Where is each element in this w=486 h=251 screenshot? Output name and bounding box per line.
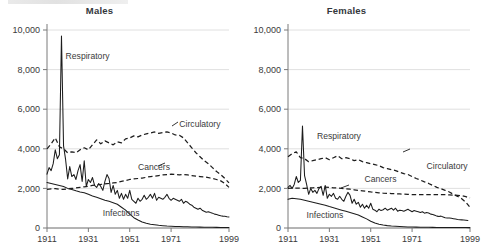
y-tick-label: 6,000 — [258, 104, 281, 114]
panel-females: Females 02,0004,0006,0008,00010,00019111… — [243, 0, 486, 251]
series-annotation-cancers: Cancers — [138, 162, 170, 172]
series-annotation-circulatory: Circulatory — [179, 119, 221, 129]
annotation-leader — [172, 122, 178, 126]
series-annotation-circulatory: Circulatory — [427, 161, 469, 171]
x-tick-label: 1971 — [402, 234, 422, 244]
y-tick-label: 2,000 — [258, 184, 281, 194]
series-annotation-respiratory: Respiratory — [317, 131, 362, 141]
series-annotation-respiratory: Respiratory — [66, 51, 111, 61]
x-tick-label: 1931 — [78, 234, 98, 244]
x-tick-label: 1951 — [361, 234, 381, 244]
annotation-leader — [403, 149, 410, 152]
series-infections — [47, 182, 229, 227]
y-tick-label: 8,000 — [17, 65, 40, 75]
x-tick-label: 1971 — [161, 234, 181, 244]
y-tick-label: 2,000 — [17, 184, 40, 194]
annotation-leader — [341, 185, 349, 188]
plot-females: 02,0004,0006,0008,00010,0001911193119511… — [243, 0, 486, 251]
plot-males: 02,0004,0006,0008,00010,0001911193119511… — [0, 0, 243, 251]
mortality-trends-figure: Males 02,0004,0006,0008,00010,0001911193… — [0, 0, 486, 251]
y-tick-label: 4,000 — [258, 144, 281, 154]
y-tick-label: 0 — [276, 223, 281, 233]
x-tick-label: 1999 — [219, 234, 239, 244]
series-annotation-infections: Infections — [103, 208, 140, 218]
y-tick-label: 10,000 — [253, 25, 281, 35]
y-tick-label: 8,000 — [258, 65, 281, 75]
series-annotation-infections: Infections — [307, 210, 344, 220]
series-respiratory — [288, 126, 468, 220]
x-tick-label: 1911 — [37, 234, 56, 244]
x-tick-label: 1911 — [278, 234, 297, 244]
series-annotation-cancers: Cancers — [365, 174, 397, 184]
y-tick-label: 0 — [35, 223, 40, 233]
x-tick-label: 1951 — [120, 234, 140, 244]
panel-males: Males 02,0004,0006,0008,00010,0001911193… — [0, 0, 243, 251]
x-tick-label: 1931 — [319, 234, 339, 244]
y-tick-label: 6,000 — [17, 104, 40, 114]
y-tick-label: 4,000 — [17, 144, 40, 154]
y-tick-label: 10,000 — [12, 25, 40, 35]
x-tick-label: 1999 — [460, 234, 480, 244]
